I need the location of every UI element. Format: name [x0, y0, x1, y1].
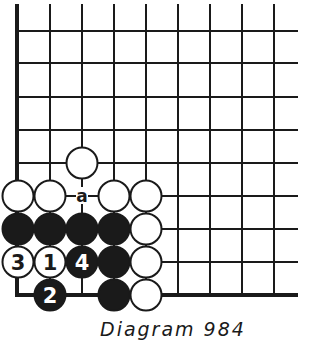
black-stone: 2 — [35, 280, 66, 311]
markers-layer: a — [76, 186, 88, 206]
white-stone: 1 — [35, 247, 66, 278]
move-number: 4 — [75, 251, 90, 275]
white-stone: 3 — [3, 247, 34, 278]
white-stone — [35, 181, 66, 212]
white-stone — [131, 247, 162, 278]
white-stone — [131, 181, 162, 212]
black-stone — [35, 214, 66, 245]
black-stone — [99, 247, 130, 278]
black-stone — [67, 214, 98, 245]
white-stone — [67, 148, 98, 179]
move-number: 1 — [43, 251, 58, 275]
white-stone — [99, 181, 130, 212]
black-stone: 4 — [67, 247, 98, 278]
black-stone — [3, 214, 34, 245]
move-number: 3 — [11, 251, 26, 275]
black-stone — [99, 280, 130, 311]
move-number: 2 — [43, 284, 58, 308]
white-stone — [3, 181, 34, 212]
marker-label: a — [76, 186, 87, 206]
diagram-caption: Diagram 984 — [100, 318, 246, 340]
black-stone — [99, 214, 130, 245]
white-stone — [131, 214, 162, 245]
point-marker: a — [76, 186, 88, 206]
white-stone — [131, 280, 162, 311]
